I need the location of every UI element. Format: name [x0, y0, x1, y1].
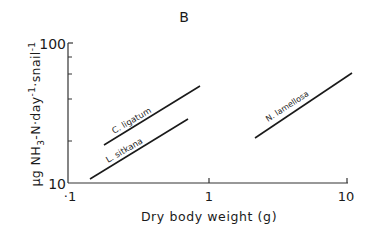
series-line-l-sitkana — [90, 119, 188, 179]
x-tick-label-1: 1 — [205, 189, 213, 204]
chart-title: B — [179, 9, 189, 25]
x-axis-label: Dry body weight (g) — [141, 209, 277, 224]
y-axis-label: µg NH3-N·day-1·snail-1 — [27, 42, 46, 187]
series-label-c-ligatum: C. ligatum — [110, 105, 153, 135]
y-tick-label-100: 100 — [39, 36, 66, 52]
x-tick-label-0.1: ·1 — [64, 189, 76, 204]
x-tick-label-10: 10 — [338, 189, 355, 204]
chart: B 100 10 ·1 1 10 Dry body weight (g) µg … — [0, 0, 371, 232]
series-line-c-ligatum — [104, 86, 200, 145]
series-line-n-lamellosa — [255, 73, 352, 138]
series-label-n-lamellosa: N. lamellosa — [264, 89, 310, 123]
